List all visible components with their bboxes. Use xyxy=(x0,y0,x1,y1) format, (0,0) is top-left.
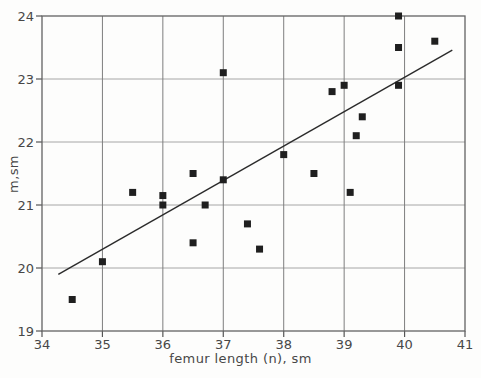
data-point xyxy=(395,13,402,20)
y-axis-title: m,sm xyxy=(6,155,21,193)
y-tick-label: 22 xyxy=(17,135,34,150)
data-point xyxy=(69,296,76,303)
data-point xyxy=(329,88,336,95)
data-point xyxy=(431,38,438,45)
data-point xyxy=(202,202,209,209)
data-point xyxy=(129,189,136,196)
scatter-chart-figure: 1920212223243435363738394041 femur lengt… xyxy=(0,0,481,378)
data-point xyxy=(159,202,166,209)
x-tick-label: 36 xyxy=(155,337,172,352)
data-point xyxy=(310,170,317,177)
data-point xyxy=(395,44,402,51)
y-tick-label: 20 xyxy=(17,261,34,276)
x-tick-label: 39 xyxy=(336,337,353,352)
y-tick-label: 24 xyxy=(17,9,34,24)
data-point xyxy=(395,82,402,89)
y-tick-label: 19 xyxy=(17,324,34,339)
x-axis-title: femur length (n), sm xyxy=(0,351,481,366)
x-tick-label: 34 xyxy=(34,337,51,352)
y-tick-label: 23 xyxy=(17,72,34,87)
data-point xyxy=(190,239,197,246)
data-point xyxy=(347,189,354,196)
data-point xyxy=(159,192,166,199)
x-tick-label: 40 xyxy=(396,337,413,352)
x-tick-label: 37 xyxy=(215,337,232,352)
x-tick-label: 38 xyxy=(275,337,292,352)
data-point xyxy=(256,246,263,253)
plot-frame xyxy=(42,16,465,331)
data-point xyxy=(353,132,360,139)
data-point xyxy=(220,69,227,76)
data-point xyxy=(220,176,227,183)
data-point xyxy=(99,258,106,265)
data-point xyxy=(244,220,251,227)
y-tick-label: 21 xyxy=(17,198,34,213)
data-point xyxy=(280,151,287,158)
scatter-plot: 1920212223243435363738394041 xyxy=(0,0,481,378)
data-point xyxy=(341,82,348,89)
x-tick-label: 35 xyxy=(94,337,111,352)
data-point xyxy=(359,113,366,120)
trend-line xyxy=(58,50,452,274)
data-point xyxy=(190,170,197,177)
x-tick-label: 41 xyxy=(457,337,474,352)
